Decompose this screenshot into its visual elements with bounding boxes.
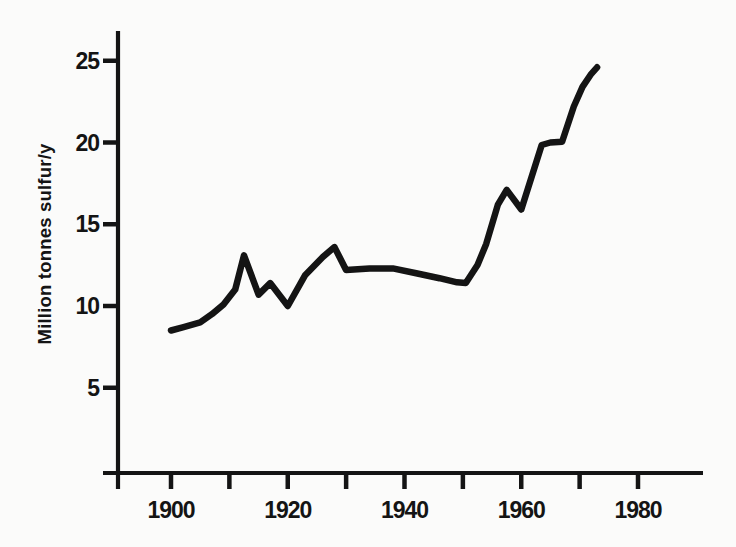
y-tick-label: 25 [75,48,100,74]
scanned-chart-page: 19001920194019601980510152025 Million to… [0,0,736,547]
axis-ticks [103,61,638,489]
x-tick-label: 1980 [614,497,661,523]
x-tick-label: 1940 [381,497,428,523]
emissions-data-line [171,67,597,330]
y-tick-label: 5 [87,375,100,401]
y-tick-label: 20 [75,130,99,156]
x-tick-label: 1960 [498,497,545,523]
sulfur-emissions-line-chart: 19001920194019601980510152025 Million to… [0,0,736,547]
axis-tick-labels: 19001920194019601980510152025 [75,48,661,523]
y-tick-label: 15 [75,211,100,237]
axes [103,31,703,489]
y-tick-label: 10 [75,293,99,319]
x-tick-label: 1920 [264,497,311,523]
x-tick-label: 1900 [147,497,194,523]
y-axis-title: Million tonnes sulfur/y [34,143,55,344]
